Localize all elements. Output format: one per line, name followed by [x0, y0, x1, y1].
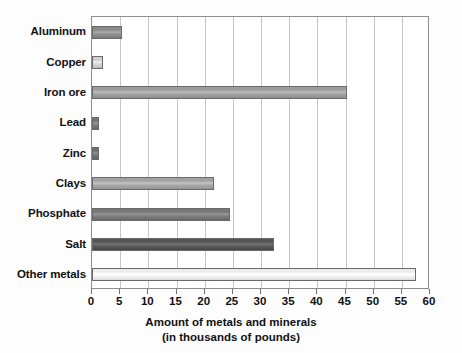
bar-row: [92, 108, 428, 138]
bar-row: [92, 78, 428, 108]
y-axis-label-copper: Copper: [46, 56, 86, 68]
bar-row: [92, 260, 428, 290]
bar-row: [92, 17, 428, 47]
x-tick-mark: [316, 289, 317, 294]
x-tick-label: 0: [76, 295, 106, 308]
bar-row: [92, 229, 428, 259]
x-tick-mark: [429, 289, 430, 294]
y-axis-label-other-metals: Other metals: [17, 268, 86, 280]
x-tick-mark: [260, 289, 261, 294]
bar-row: [92, 138, 428, 168]
x-tick-mark: [232, 289, 233, 294]
y-axis-label-salt: Salt: [65, 238, 86, 250]
x-tick-mark: [401, 289, 402, 294]
x-axis-title: Amount of metals and minerals (in thousa…: [0, 315, 462, 345]
x-axis-title-line-1: Amount of metals and minerals: [0, 315, 462, 330]
bar-aluminum: [92, 26, 122, 39]
bar-zinc: [92, 147, 99, 160]
bar-row: [92, 169, 428, 199]
x-tick-label: 50: [358, 295, 388, 308]
bar-other-metals: [92, 268, 416, 281]
x-tick-mark: [147, 289, 148, 294]
y-axis-label-aluminum: Aluminum: [31, 25, 86, 37]
x-tick-label: 20: [189, 295, 219, 308]
x-tick-label: 45: [330, 295, 360, 308]
x-tick-label: 10: [132, 295, 162, 308]
x-tick-label: 55: [386, 295, 416, 308]
plot-area: [91, 16, 429, 289]
x-tick-label: 5: [104, 295, 134, 308]
bar-copper: [92, 56, 103, 69]
x-tick-mark: [119, 289, 120, 294]
bar-phosphate: [92, 208, 230, 221]
x-tick-label: 30: [245, 295, 275, 308]
x-tick-mark: [91, 289, 92, 294]
y-axis-label-lead: Lead: [60, 116, 86, 128]
y-axis-label-zinc: Zinc: [63, 147, 86, 159]
bar-iron-ore: [92, 86, 347, 99]
x-tick-label: 60: [414, 295, 444, 308]
y-axis-label-iron-ore: Iron ore: [44, 86, 86, 98]
x-tick-mark: [204, 289, 205, 294]
x-axis-title-line-2: (in thousands of pounds): [0, 330, 462, 345]
y-axis-label-clays: Clays: [56, 177, 86, 189]
x-tick-mark: [288, 289, 289, 294]
x-tick-label: 35: [273, 295, 303, 308]
bar-clays: [92, 177, 214, 190]
x-tick-label: 40: [301, 295, 331, 308]
x-tick-label: 15: [161, 295, 191, 308]
x-tick-mark: [345, 289, 346, 294]
bar-chart: AluminumCopperIron oreLeadZincClaysPhosp…: [0, 0, 462, 353]
bar-lead: [92, 117, 99, 130]
bar-row: [92, 47, 428, 77]
x-tick-label: 25: [217, 295, 247, 308]
x-tick-mark: [176, 289, 177, 294]
x-tick-mark: [373, 289, 374, 294]
y-axis-label-phosphate: Phosphate: [28, 207, 86, 219]
bar-row: [92, 199, 428, 229]
bar-salt: [92, 238, 274, 251]
